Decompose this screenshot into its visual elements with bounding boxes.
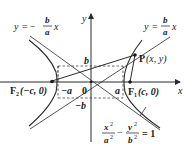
label-P: P (x, y) <box>139 53 167 65</box>
svg-text:(−c, 0): (−c, 0) <box>20 85 47 97</box>
label-F1: F 1 (c, 0) <box>128 86 159 98</box>
hyperbola-equation: x 2 a 2 − y 2 b 2 = 1 <box>102 121 155 145</box>
svg-text:a: a <box>163 27 168 37</box>
label-F2: F 2 (−c, 0) <box>10 85 47 97</box>
svg-text:b: b <box>128 135 133 145</box>
point-origin <box>90 81 93 84</box>
svg-text:−: − <box>30 21 36 32</box>
svg-text:2: 2 <box>134 121 137 127</box>
svg-text:x: x <box>103 122 109 132</box>
svg-text:b: b <box>163 15 168 25</box>
svg-text:a: a <box>45 27 50 37</box>
tick-b: b <box>84 55 89 66</box>
svg-text:2: 2 <box>110 121 113 127</box>
origin-label: 0 <box>82 85 87 96</box>
svg-text:=: = <box>22 21 28 32</box>
tick-neg-a: −a <box>61 85 72 96</box>
svg-text:x: x <box>53 21 59 32</box>
tick-a: a <box>115 85 120 96</box>
svg-text:y: y <box>127 122 133 132</box>
svg-text:2: 2 <box>16 91 19 97</box>
svg-text:y: y <box>13 21 19 32</box>
svg-text:=: = <box>152 21 158 32</box>
point-F1 <box>128 80 132 84</box>
point-F2 <box>50 80 54 84</box>
asymptote-positive-label: y = b a x <box>143 15 177 37</box>
svg-text:(x, y): (x, y) <box>146 53 167 65</box>
x-axis-label: x <box>177 85 183 96</box>
svg-text:(c, 0): (c, 0) <box>138 86 159 98</box>
y-axis-label: y <box>81 13 87 24</box>
tick-neg-b: −b <box>75 100 86 111</box>
svg-text:−: − <box>117 127 123 138</box>
line-P-F1 <box>130 55 135 82</box>
svg-text:2: 2 <box>134 134 137 140</box>
svg-text:2: 2 <box>110 134 113 140</box>
svg-text:1: 1 <box>134 92 137 98</box>
svg-text:y: y <box>143 21 149 32</box>
svg-text:b: b <box>45 15 50 25</box>
point-P <box>133 53 137 57</box>
svg-text:x: x <box>171 21 177 32</box>
svg-text:= 1: = 1 <box>142 128 155 139</box>
asymptote-negative-label: y = − b a x <box>13 15 59 37</box>
hyperbola-diagram: x y 0 b −b a −a y = − b a x y = b a x P … <box>0 0 189 159</box>
svg-text:a: a <box>104 135 109 145</box>
svg-text:P: P <box>139 53 145 64</box>
